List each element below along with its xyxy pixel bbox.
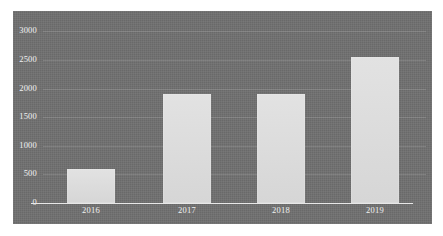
x-tick-label-2017: 2017 — [163, 205, 211, 215]
y-tick-label-2000: 2000 — [13, 84, 37, 93]
plot-area: 3000 2500 2000 1500 1000 500 0 2016 2017… — [13, 11, 432, 224]
y-tick-label-2500: 2500 — [13, 55, 37, 64]
x-axis-line — [31, 203, 413, 204]
bar-2019[interactable] — [351, 57, 399, 203]
x-tick-label-2019: 2019 — [351, 205, 399, 215]
y-tick-label-1500: 1500 — [13, 112, 37, 121]
x-tick-label-2018: 2018 — [257, 205, 305, 215]
y-tick-label-3000: 3000 — [13, 26, 37, 35]
bar-2016[interactable] — [67, 169, 115, 203]
x-tick-label-2016: 2016 — [67, 205, 115, 215]
gridline-3000 — [43, 31, 426, 32]
bar-2017[interactable] — [163, 94, 211, 203]
bar-chart-figure: 3000 2500 2000 1500 1000 500 0 2016 2017… — [0, 0, 443, 236]
bar-2018[interactable] — [257, 94, 305, 203]
y-tick-label-1000: 1000 — [13, 141, 37, 150]
y-tick-label-500: 500 — [13, 169, 37, 178]
